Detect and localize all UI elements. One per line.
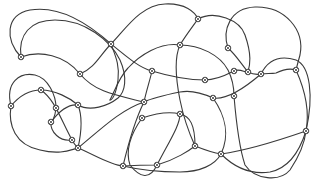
strand-s2 — [21, 20, 125, 108]
strand-s27 — [78, 148, 123, 166]
strand-s31 — [144, 71, 152, 102]
crossing-node-icon — [154, 162, 160, 168]
crossing-node-icon — [77, 71, 83, 77]
crossing-node-icon — [75, 102, 81, 108]
crossing-node-icon — [231, 68, 237, 74]
crossing-node-icon — [69, 137, 75, 143]
strand-s1 — [10, 9, 248, 80]
crossing-node-icon — [195, 16, 201, 22]
crossing-node-icon — [177, 42, 183, 48]
crossing-node-icon — [192, 143, 198, 149]
strand-s15 — [144, 91, 213, 102]
crossing-node-icon — [38, 87, 44, 93]
crossing-node-icon — [218, 151, 224, 157]
strand-s13 — [234, 96, 306, 178]
strand-s22 — [10, 106, 78, 152]
crossing-node-icon — [8, 103, 14, 109]
crossing-node-icon — [202, 77, 208, 83]
crossing-node-icon — [149, 68, 155, 74]
strand-s29 — [195, 131, 306, 154]
strand-s6 — [176, 19, 198, 146]
strand-layer — [10, 4, 310, 178]
crossing-node-icon — [293, 67, 299, 73]
crossing-node-icon — [177, 111, 183, 117]
strand-s9 — [226, 7, 301, 70]
crossing-node-icon — [258, 71, 264, 77]
crossing-node-icon — [303, 128, 309, 134]
crossing-node-icon — [53, 105, 59, 111]
knot-diagram-canvas — [0, 0, 317, 188]
crossing-node-icon — [120, 163, 126, 169]
crossing-node-icon — [245, 69, 251, 75]
strand-s12 — [221, 70, 307, 173]
strand-s19 — [128, 118, 157, 176]
crossing-node-icon — [108, 41, 114, 47]
strand-s18 — [142, 113, 195, 146]
crossing-node-icon — [18, 54, 24, 60]
strand-s17 — [123, 102, 144, 166]
crossing-node-icon — [141, 99, 147, 105]
crossing-node-icon — [48, 119, 54, 125]
crossing-node-icon — [75, 145, 81, 151]
crossing-node-icon — [210, 95, 216, 101]
strand-s4 — [80, 4, 198, 74]
strand-s8 — [110, 45, 180, 100]
crossing-node-icon — [139, 115, 145, 121]
strand-s3 — [21, 54, 144, 102]
strand-s16 — [123, 98, 226, 172]
strand-s7 — [180, 45, 234, 96]
strand-s24 — [51, 108, 72, 140]
crossing-node-icon — [231, 93, 237, 99]
crossing-node-icon — [225, 45, 231, 51]
